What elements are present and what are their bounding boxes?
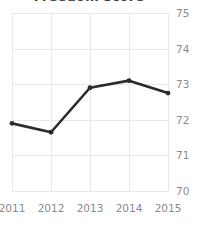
x-tick-label-2012: 2012 [29,202,73,214]
x-tick-label-2015: 2015 [146,202,190,214]
y-tick-label-72: 72 [176,115,200,126]
line-chart: Freedom score 75 74 73 72 71 70 2011 201… [0,0,201,226]
y-tick-label-73: 73 [176,79,200,90]
chart-title: Freedom score [0,0,178,4]
y-tick-label-70: 70 [176,186,200,197]
x-tick-label-2014: 2014 [107,202,151,214]
data-point-2011 [10,121,15,126]
y-tick-label-74: 74 [176,44,200,55]
data-point-2013 [88,85,93,90]
y-tick-label-75: 75 [176,8,200,19]
gridline-vertical-2015 [168,13,169,191]
data-point-2015 [166,91,171,96]
plot-area [12,13,168,191]
data-point-2012 [49,130,54,135]
x-tick-label-2013: 2013 [68,202,112,214]
series-freedom-score [12,13,168,191]
gridline-horizontal-70 [12,191,168,192]
y-tick-label-71: 71 [176,150,200,161]
data-point-2014 [127,78,132,83]
